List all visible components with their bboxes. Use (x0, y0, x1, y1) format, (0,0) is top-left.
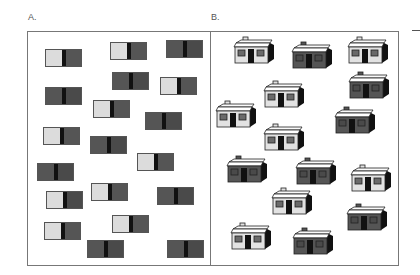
house-icon (262, 79, 306, 111)
two-tone-block (45, 49, 82, 67)
two-tone-block (157, 187, 194, 205)
house-icon (349, 163, 393, 195)
two-tone-block (112, 215, 149, 233)
two-tone-block (167, 240, 204, 258)
two-tone-block (44, 222, 81, 240)
two-tone-block (110, 42, 147, 60)
panel-b-label: B. (211, 12, 220, 22)
house-icon (229, 221, 273, 253)
two-tone-block (166, 40, 203, 58)
two-tone-block (46, 191, 83, 209)
house-icon (291, 226, 335, 258)
two-tone-block (137, 153, 174, 171)
house-icon (333, 105, 377, 137)
house-icon (346, 35, 390, 67)
two-tone-block (93, 100, 130, 118)
house-icon (214, 99, 258, 131)
house-icon (290, 40, 334, 72)
two-tone-block (90, 136, 127, 154)
two-tone-block (112, 72, 149, 90)
two-tone-block (91, 183, 128, 201)
edge-mark (412, 30, 420, 31)
two-tone-block (37, 163, 74, 181)
two-tone-block (43, 127, 80, 145)
house-icon (345, 202, 389, 234)
house-icon (294, 156, 338, 188)
panel-a-label: A. (28, 12, 37, 22)
two-tone-block (145, 112, 182, 130)
house-icon (225, 154, 269, 186)
house-icon (232, 35, 276, 67)
house-icon (347, 70, 391, 102)
two-tone-block (87, 240, 124, 258)
two-tone-block (45, 87, 82, 105)
two-tone-block (160, 77, 197, 95)
house-icon (270, 186, 314, 218)
house-icon (262, 122, 306, 154)
